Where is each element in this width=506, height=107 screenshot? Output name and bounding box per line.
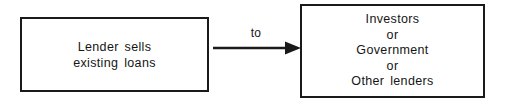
lender-box-line-1: Lender sells — [78, 39, 152, 55]
buyers-box-line-4: or — [387, 59, 399, 75]
flow-diagram: Lender sells existing loans to Investors… — [0, 0, 506, 107]
arrow-label-to: to — [236, 26, 276, 40]
buyers-box-line-5: Other lenders — [351, 74, 433, 90]
buyers-box-line-1: Investors — [366, 12, 420, 28]
buyers-box-line-3: Government — [356, 43, 428, 59]
buyers-box: Investors or Government or Other lenders — [300, 4, 485, 98]
lender-box: Lender sells existing loans — [20, 17, 209, 92]
buyers-box-line-2: or — [387, 28, 399, 44]
lender-box-line-2: existing loans — [73, 55, 156, 71]
